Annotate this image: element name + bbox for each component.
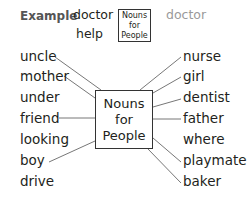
right-word-dentist[interactable]: dentist	[183, 91, 230, 105]
left-word-friend[interactable]: friend	[20, 112, 60, 126]
left-word-looking[interactable]: looking	[20, 133, 69, 147]
right-word-where[interactable]: where	[183, 133, 224, 147]
center-box: Nouns for People	[95, 90, 153, 149]
left-word-boy[interactable]: boy	[20, 154, 45, 168]
line-dentist	[153, 99, 181, 107]
left-word-mother[interactable]: mother	[20, 70, 69, 84]
example-word-doctor: doctor	[73, 9, 113, 22]
center-box-line-1: Nouns	[104, 96, 145, 112]
line-nurse	[140, 57, 181, 90]
line-girl	[153, 77, 181, 93]
right-word-girl[interactable]: girl	[183, 70, 205, 84]
example-word-help: help	[76, 28, 103, 41]
right-word-baker[interactable]: baker	[183, 175, 221, 189]
right-word-father[interactable]: father	[183, 112, 224, 126]
example-box-line-3: People	[121, 31, 148, 41]
example-box-line-1: Nouns	[122, 11, 147, 21]
line-baker	[148, 149, 181, 183]
example-answer: doctor	[166, 9, 206, 22]
example-box: Nouns for People	[118, 9, 151, 42]
example-label: Example	[20, 10, 77, 22]
right-word-nurse[interactable]: nurse	[183, 50, 221, 64]
example-box-line-2: for	[129, 21, 140, 31]
left-word-uncle[interactable]: uncle	[20, 50, 57, 64]
center-box-line-2: for	[115, 112, 133, 128]
center-box-line-3: People	[102, 128, 145, 144]
right-word-playmate[interactable]: playmate	[183, 154, 247, 168]
left-word-drive[interactable]: drive	[20, 175, 54, 189]
left-word-under[interactable]: under	[20, 91, 60, 105]
